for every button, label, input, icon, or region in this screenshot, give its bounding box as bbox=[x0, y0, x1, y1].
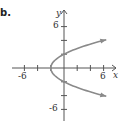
x-tick-label-6: 6 bbox=[100, 72, 106, 81]
y-axis-label: y bbox=[56, 9, 61, 18]
parabola-plot bbox=[0, 0, 121, 125]
y-tick-label-neg6: -6 bbox=[49, 104, 58, 113]
x-axis-label: x bbox=[113, 71, 118, 80]
y-tick-label-6: 6 bbox=[53, 21, 59, 30]
x-tick-label-neg6: -6 bbox=[18, 72, 27, 81]
